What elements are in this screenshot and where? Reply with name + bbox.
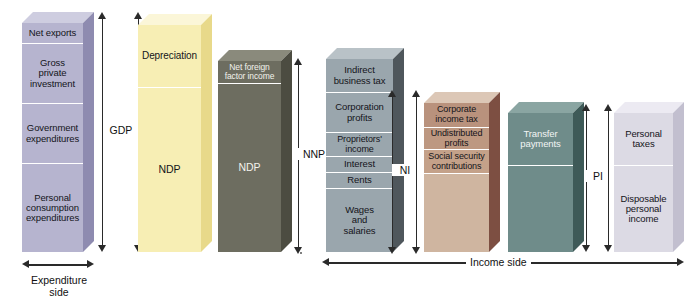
segment-social-security-contributions: Social security contributions xyxy=(424,149,489,173)
segment-interest: Interest xyxy=(326,156,393,172)
segment-label: Wages and salaries xyxy=(342,205,378,236)
segment-label: Personal consumption expenditures xyxy=(24,193,81,224)
segment-depreciation: Depreciation xyxy=(138,25,201,87)
column-top-face xyxy=(614,102,684,113)
segment-ndp: NDP xyxy=(138,87,201,252)
segment-government-expenditures: Government expenditures xyxy=(22,103,83,163)
segment-undistributed-profits: Undistributed profits xyxy=(424,127,489,149)
expenditure-side-arrow xyxy=(22,258,94,272)
column-side-face xyxy=(201,14,212,252)
expenditure-side-label: Expenditure side xyxy=(14,274,104,299)
segment-wages-and-salaries: Wages and salaries xyxy=(326,188,393,252)
column-side-face xyxy=(673,102,684,252)
decorative-dot xyxy=(300,252,302,254)
column-front-face: Net foreign factor income NDP xyxy=(218,61,281,252)
segment-label: Disposable personal income xyxy=(619,194,669,225)
segment-personal-consumption-expenditures: Personal consumption expenditures xyxy=(22,163,83,252)
segment-label: NDP xyxy=(157,164,183,175)
segment-label: Corporation profits xyxy=(333,102,386,123)
segment-net-exports: Net exports xyxy=(22,23,83,43)
segment-corporate-income-tax: Corporate income tax xyxy=(424,103,489,127)
segment-label: Interest xyxy=(342,159,377,169)
segment-remainder xyxy=(508,165,573,252)
income-side-label: Income side xyxy=(466,256,531,268)
segment-label: NDP xyxy=(237,162,263,173)
column-top-face xyxy=(218,50,292,61)
column-front-face: Depreciation NDP xyxy=(138,25,201,252)
segment-transfer-payments: Transfer payments xyxy=(508,113,573,165)
segment-personal-taxes: Personal taxes xyxy=(614,113,673,165)
transfer-payments-column: Transfer payments xyxy=(508,102,584,252)
segment-gross-private-investment: Gross private investment xyxy=(22,43,83,103)
column-front-face: Corporate income tax Undistributed profi… xyxy=(424,103,489,252)
ni-deductions-column: Corporate income tax Undistributed profi… xyxy=(424,92,500,252)
segment-proprietors-income: Proprietors' income xyxy=(326,132,393,156)
column-side-face xyxy=(83,12,94,252)
segment-label: Government expenditures xyxy=(24,123,81,144)
column-side-face xyxy=(489,92,500,252)
segment-label: Indirect business tax xyxy=(332,65,388,86)
segment-label: Social security contributions xyxy=(426,152,487,171)
diagram-canvas: Net exports Gross private investment Gov… xyxy=(0,0,690,307)
segment-remainder xyxy=(424,173,489,252)
segment-net-foreign-factor-income: Net foreign factor income xyxy=(218,61,281,83)
segment-label: Gross private investment xyxy=(28,58,77,89)
nnp-column: Net foreign factor income NDP xyxy=(218,50,292,252)
segment-disposable-personal-income: Disposable personal income xyxy=(614,165,673,252)
ni-bracket-right-arrow xyxy=(410,90,424,254)
column-front-face: Net exports Gross private investment Gov… xyxy=(22,23,83,252)
segment-rents: Rents xyxy=(326,172,393,188)
segment-corporation-profits: Corporation profits xyxy=(326,92,393,132)
segment-indirect-business-tax: Indirect business tax xyxy=(326,59,393,92)
column-front-face: Personal taxes Disposable personal incom… xyxy=(614,113,673,252)
segment-label: Proprietors' income xyxy=(335,135,384,154)
segment-label: Net foreign factor income xyxy=(223,63,277,81)
segment-label: Corporate income tax xyxy=(433,105,480,124)
segment-label: Personal taxes xyxy=(623,129,664,150)
segment-ndp: NDP xyxy=(218,83,281,252)
column-top-face xyxy=(138,14,212,25)
column-top-face xyxy=(326,48,404,59)
segment-label: Rents xyxy=(345,175,373,185)
column-front-face: Transfer payments xyxy=(508,113,573,252)
segment-label: Depreciation xyxy=(140,51,199,62)
column-front-face: Indirect business tax Corporation profit… xyxy=(326,59,393,252)
segment-label: Undistributed profits xyxy=(429,129,485,148)
personal-income-column: Personal taxes Disposable personal incom… xyxy=(614,102,684,252)
segment-label: Net exports xyxy=(27,28,78,38)
column-top-face xyxy=(22,12,94,23)
segment-label: Transfer payments xyxy=(518,129,562,150)
column-top-face xyxy=(424,92,500,103)
gdp-expenditure-column: Net exports Gross private investment Gov… xyxy=(22,12,94,252)
ndp-depreciation-column: Depreciation NDP xyxy=(138,14,212,252)
column-side-face xyxy=(281,50,292,252)
column-top-face xyxy=(508,102,584,113)
